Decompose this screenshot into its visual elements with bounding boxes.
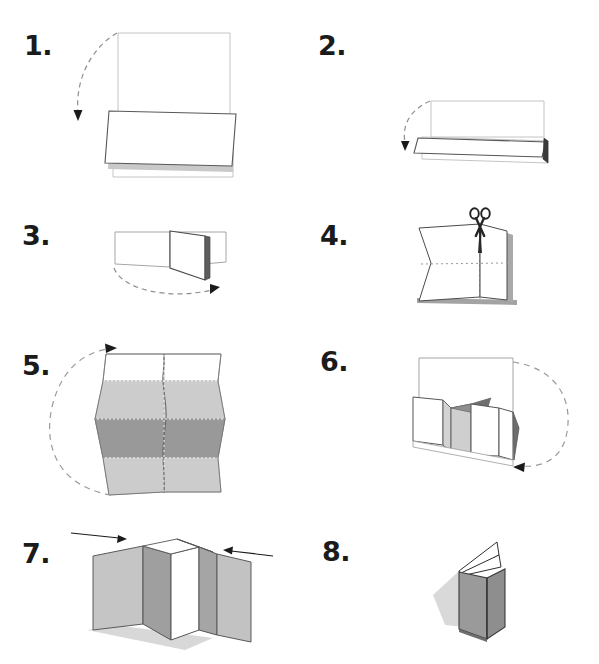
arrow-head-right-icon (105, 344, 117, 354)
step-4-figure (405, 205, 595, 315)
pleat-left-band-light (95, 381, 164, 419)
step-6-figure (395, 340, 595, 490)
pleat-panel-4 (499, 408, 513, 460)
arrow-head-left-icon (513, 463, 525, 473)
panel-center (171, 547, 199, 640)
paper-left-half (419, 224, 480, 301)
panel-left-outer (93, 546, 143, 630)
pleat-left-band-dark (95, 419, 164, 458)
step-7-number: 7. (22, 540, 50, 567)
pleat-right-band-light (164, 381, 225, 419)
paper-spine-edge (543, 138, 548, 163)
step-1-figure (55, 20, 285, 195)
pleat-right-band-bottom (164, 458, 221, 492)
pleat-panel-3 (471, 404, 499, 456)
step-6-number: 6. (320, 348, 348, 375)
paper-upper-panel (118, 33, 230, 115)
arrow-left-icon (231, 551, 273, 556)
step-8-illustration (425, 525, 565, 650)
step-4-number: 4. (320, 222, 348, 249)
panel-right-outer (217, 554, 251, 642)
step-2-illustration (400, 85, 599, 195)
pleat-right-band-dark (164, 419, 225, 458)
arrow-right-head-icon (117, 535, 127, 543)
pleat-panel-1 (413, 397, 443, 445)
step-7-figure (65, 518, 285, 658)
booklet-front-cover (459, 572, 487, 639)
step-8-figure (425, 525, 565, 650)
pleat-left-band-bottom (103, 458, 164, 495)
paper-upper-panel (431, 101, 544, 137)
panel-right-inner (199, 547, 217, 635)
paper-spine-edge (205, 236, 210, 280)
paper-folded-flap (105, 111, 236, 166)
step-2-figure (400, 85, 599, 195)
step-8-number: 8. (322, 538, 350, 565)
panel-left-inner (143, 546, 171, 640)
arrow-right-icon (71, 533, 119, 538)
step-3-figure (100, 212, 280, 312)
step-2-number: 2. (318, 32, 346, 59)
pleat-left-band-white (103, 354, 164, 381)
pleat-right-band-white (164, 354, 221, 381)
step-5-illustration (25, 335, 275, 510)
step-1-number: 1. (24, 32, 52, 59)
paper-folded-flap (414, 138, 546, 157)
booklet-back-cover (487, 569, 505, 639)
arrow-head-down-icon (401, 141, 410, 151)
curved-fold-arrow-icon (78, 33, 117, 112)
paper-spine-edge (513, 412, 519, 460)
arrow-left-head-icon (223, 547, 233, 555)
step-3-illustration (100, 212, 280, 312)
pleat-panel-2 (443, 400, 451, 452)
step-4-illustration (405, 205, 595, 315)
arrow-head-right-icon (210, 284, 220, 294)
arrow-head-down-icon (74, 110, 83, 121)
paper-standing-panel (170, 231, 205, 280)
step-7-illustration (65, 518, 285, 658)
step-6-illustration (395, 340, 595, 490)
instruction-sheet: 1. 2. (0, 0, 599, 664)
paper-flat-left-panel (115, 232, 170, 267)
step-5-figure (25, 335, 275, 510)
curved-rotate-arrow-icon (513, 362, 568, 466)
step-3-number: 3. (22, 222, 50, 249)
step-1-illustration (55, 20, 285, 195)
